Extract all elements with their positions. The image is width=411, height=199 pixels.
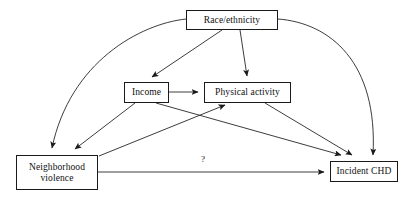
node-incident-chd[interactable]: Incident CHD <box>330 161 398 182</box>
edge-race-to-physical <box>240 30 247 76</box>
edge-violence-to-physical <box>99 105 225 156</box>
edge-income-to-chd <box>156 103 341 155</box>
node-race-ethnicity-label: Race/ethnicity <box>201 15 263 25</box>
node-physical-activity[interactable]: Physical activity <box>204 82 291 103</box>
edge-income-to-violence <box>75 103 135 149</box>
node-physical-activity-label: Physical activity <box>212 87 283 97</box>
node-neighborhood-violence[interactable]: Neighborhood violence <box>16 155 98 190</box>
edge-race-to-chd <box>278 19 373 155</box>
edge-physical-to-chd <box>265 103 352 155</box>
node-race-ethnicity[interactable]: Race/ethnicity <box>186 10 278 30</box>
node-incident-chd-label: Incident CHD <box>334 166 395 176</box>
edge-race-to-income <box>152 30 222 77</box>
edge-label-question-mark: ? <box>201 154 205 164</box>
node-income[interactable]: Income <box>124 82 169 103</box>
node-income-label: Income <box>129 87 164 97</box>
node-neighborhood-violence-label: Neighborhood violence <box>26 162 88 183</box>
causal-diagram: Race/ethnicity Income Physical activity … <box>0 0 411 199</box>
